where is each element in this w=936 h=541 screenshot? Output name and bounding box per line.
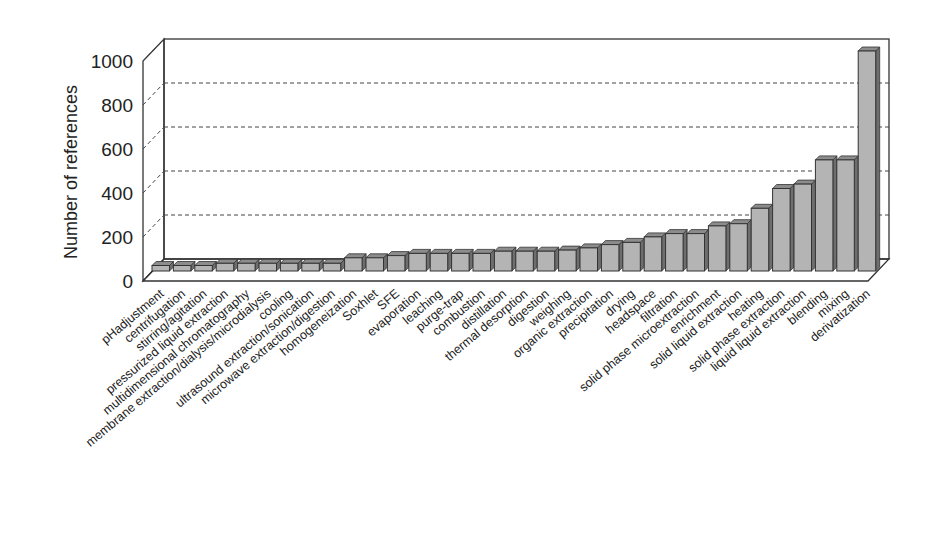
bar	[238, 259, 260, 271]
bar	[773, 185, 795, 272]
bar	[559, 246, 581, 271]
bar	[409, 249, 431, 271]
bar	[815, 156, 837, 271]
bar	[366, 254, 388, 271]
bar	[152, 262, 174, 272]
bar	[387, 252, 409, 271]
y-tick-label: 600	[101, 139, 133, 160]
bar	[259, 259, 281, 271]
y-tick-label: 800	[101, 95, 133, 116]
bar	[537, 247, 559, 271]
bar-chart: 02004006008001000 pHadjustmentcentrifuga…	[0, 0, 936, 541]
y-axis-ticks: 02004006008001000	[91, 51, 133, 292]
bar	[473, 249, 495, 271]
bar	[216, 259, 238, 271]
gridline	[143, 171, 164, 193]
bar	[837, 156, 859, 271]
bar	[858, 47, 880, 271]
bar	[623, 238, 645, 271]
bar	[173, 262, 195, 272]
y-tick-label: 400	[101, 183, 133, 204]
bar	[708, 222, 730, 271]
bar	[601, 241, 623, 271]
bar	[730, 220, 752, 271]
bar	[644, 233, 666, 271]
bar	[302, 259, 324, 271]
bar	[280, 259, 302, 271]
x-axis-labels: pHadjustmentcentrifugationstirring/agita…	[83, 286, 873, 449]
gridline	[143, 215, 164, 237]
bar	[666, 230, 688, 271]
y-tick-label: 200	[101, 227, 133, 248]
side-wall	[143, 39, 164, 281]
bar	[323, 259, 345, 271]
gridline	[143, 127, 164, 149]
bar	[430, 249, 452, 271]
y-tick-label: 0	[122, 271, 133, 292]
bar	[195, 262, 217, 272]
gridline	[143, 83, 164, 105]
bar	[794, 180, 816, 271]
bar	[345, 254, 367, 271]
bar	[580, 244, 602, 271]
bar	[516, 247, 538, 271]
y-axis-title: Number of references	[61, 85, 81, 259]
bar	[751, 204, 773, 271]
bar	[687, 230, 709, 271]
y-tick-label: 1000	[91, 51, 133, 72]
bar	[452, 249, 474, 271]
bars	[152, 47, 880, 271]
bar	[494, 247, 516, 271]
